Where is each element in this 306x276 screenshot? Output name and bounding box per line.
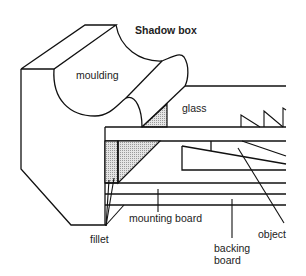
shadow-box-diagram: Shadow box glass — [0, 0, 306, 276]
object — [182, 141, 286, 223]
mounting-board-label: mounting board — [129, 212, 202, 224]
backing-board-label-2: board — [214, 254, 241, 266]
glass-label: glass — [182, 102, 207, 114]
fillet-top — [142, 104, 167, 127]
backing-board-label-1: backing — [214, 242, 250, 254]
moulding-label: moulding — [76, 69, 119, 81]
fillet — [105, 141, 160, 183]
diagram-title: Shadow box — [135, 24, 197, 36]
fillet-label: fillet — [90, 233, 109, 245]
object-label: object — [258, 228, 286, 240]
